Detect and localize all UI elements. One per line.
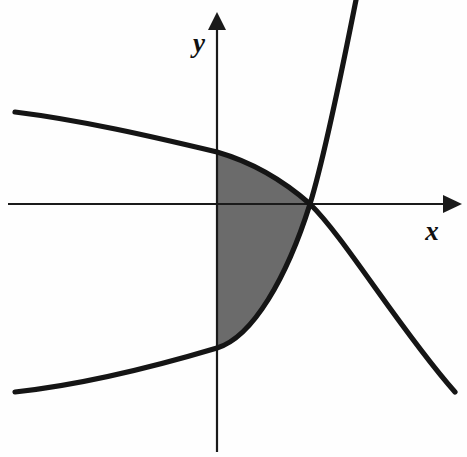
math-figure: x y: [0, 0, 467, 457]
figure-canvas: x y: [0, 0, 467, 457]
x-axis-label: x: [424, 216, 439, 246]
y-axis-label: y: [190, 28, 206, 58]
